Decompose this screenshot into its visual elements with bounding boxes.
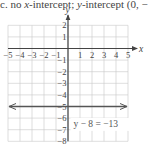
- y-tick-label: −4: [57, 90, 67, 100]
- y-axis-label: y: [65, 5, 71, 15]
- y-tick-label: 2: [62, 20, 66, 30]
- y-tick-label: −8: [57, 136, 66, 145]
- x-tick-label: −2: [39, 50, 48, 60]
- x-tick-label: 1: [78, 50, 82, 60]
- x-tick-label: −5: [3, 50, 12, 60]
- y-tick-label: −7: [57, 125, 66, 135]
- equation-label: y − 8 = −13: [74, 119, 119, 129]
- x-tick-label: 4: [114, 50, 119, 60]
- x-axis-label: x: [138, 44, 144, 54]
- x-tick-label: 2: [90, 50, 94, 60]
- y-tick-label: −1: [57, 55, 66, 65]
- x-tick-label: −4: [15, 50, 25, 60]
- y-tick-label: −6: [57, 113, 66, 123]
- x-tick-label: 5: [126, 50, 130, 60]
- x-tick-label: −3: [27, 50, 36, 60]
- x-tick-label: 3: [102, 50, 106, 60]
- y-tick-label: −2: [57, 67, 66, 77]
- annotations: y − 8 = −13: [71, 118, 131, 131]
- y-tick-label: 1: [62, 32, 66, 42]
- chart: xy −5−4−3−2−11234521−1−2−3−4−5−6−7−8 y −…: [0, 0, 156, 145]
- y-tick-label: −3: [57, 78, 66, 88]
